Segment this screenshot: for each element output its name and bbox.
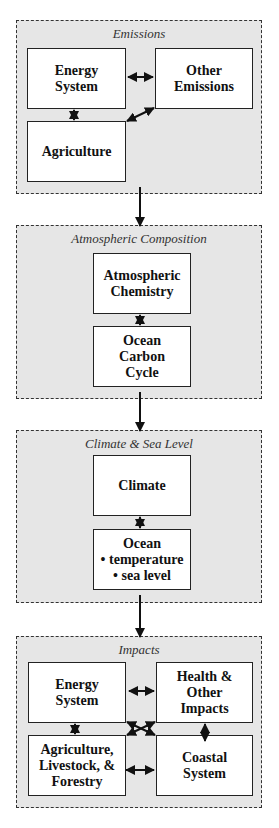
box-ocean-temperature-sea-level: Ocean • temperature • sea level	[93, 529, 191, 590]
box-label-line: Forestry	[39, 774, 115, 790]
box-label-line: Energy	[55, 63, 99, 79]
box-other-emissions: Other Emissions	[155, 48, 253, 109]
box-label-line: Ocean	[101, 536, 184, 552]
box-ocean-carbon-cycle: Ocean Carbon Cycle	[93, 326, 191, 387]
box-label-line: Cycle	[119, 365, 165, 381]
box-climate: Climate	[93, 455, 191, 516]
box-label-line: Emissions	[174, 79, 234, 95]
box-label-line: Other	[177, 685, 233, 701]
box-label-line: Chemistry	[104, 284, 181, 300]
box-label-line: System	[182, 766, 227, 782]
box-label-line: Coastal	[182, 750, 227, 766]
box-label-line: System	[55, 79, 99, 95]
box-label-line: Agriculture	[42, 144, 112, 160]
box-label-line: Impacts	[177, 701, 233, 717]
box-atmospheric-chemistry: Atmospheric Chemistry	[93, 253, 191, 314]
box-label-line: System	[55, 693, 99, 709]
box-label-line: Other	[174, 63, 234, 79]
box-label-line: Atmospheric	[104, 268, 181, 284]
box-label-line: Ocean	[119, 333, 165, 349]
panel-title-impacts: Impacts	[17, 642, 261, 658]
panel-title-climate-sea-level: Climate & Sea Level	[17, 436, 261, 452]
box-label-line: Climate	[118, 478, 165, 494]
box-label-line: Health &	[177, 669, 233, 685]
panel-title-emissions: Emissions	[17, 26, 261, 42]
box-health-other-impacts: Health & Other Impacts	[156, 662, 253, 723]
box-impacts-energy-system: Energy System	[28, 662, 126, 723]
box-label-line: Livestock, &	[39, 758, 115, 774]
box-label-line: Carbon	[119, 349, 165, 365]
box-label-line: • sea level	[101, 568, 184, 584]
box-label-line: Agriculture,	[39, 742, 115, 758]
box-label-line: • temperature	[101, 552, 184, 568]
box-emissions-energy-system: Energy System	[27, 48, 126, 109]
panel-title-atmospheric-composition: Atmospheric Composition	[17, 231, 261, 247]
box-coastal-system: Coastal System	[156, 735, 253, 796]
box-label-line: Energy	[55, 677, 99, 693]
box-emissions-agriculture: Agriculture	[27, 121, 126, 182]
box-agriculture-livestock-forestry: Agriculture, Livestock, & Forestry	[28, 735, 126, 796]
